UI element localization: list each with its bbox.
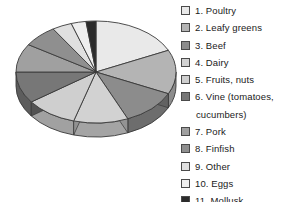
legend-swatch-finfish bbox=[181, 144, 190, 153]
legend-item[interactable]: 3. Beef bbox=[181, 38, 293, 55]
legend-item[interactable]: 5. Fruits, nuts bbox=[181, 72, 293, 89]
legend-item[interactable]: 4. Dairy bbox=[181, 55, 293, 72]
legend-item-label-continued: cucumbers) bbox=[181, 107, 247, 122]
legend-swatch-dairy bbox=[181, 58, 190, 67]
legend-item[interactable]: 7. Pork bbox=[181, 124, 293, 141]
legend-item[interactable]: 6. Vine (tomatoes, bbox=[181, 89, 293, 106]
pie-slices: 1. Poultry2. Leafy greens3. Beef4. Dairy… bbox=[16, 21, 176, 123]
legend-item-label: 4. Dairy bbox=[195, 55, 229, 70]
legend-swatch-pork bbox=[181, 127, 190, 136]
legend-swatch-beef bbox=[181, 41, 190, 50]
legend-item-label: 1. Poultry bbox=[195, 3, 236, 18]
legend-item[interactable]: 9. Other bbox=[181, 159, 293, 176]
legend-item-label: 3. Beef bbox=[195, 38, 226, 53]
legend-swatch-leafy-greens bbox=[181, 23, 190, 32]
pie-chart-figure: 1. Poultry2. Leafy greens3. Beef4. Dairy… bbox=[0, 0, 293, 202]
legend-item[interactable]: 2. Leafy greens bbox=[181, 20, 293, 37]
legend-swatch-eggs bbox=[181, 179, 190, 188]
legend: 1. Poultry2. Leafy greens3. Beef4. Dairy… bbox=[181, 3, 293, 202]
legend-swatch-poultry bbox=[181, 6, 190, 15]
legend-item[interactable]: 1. Poultry bbox=[181, 3, 293, 20]
legend-item[interactable]: 11. Mollusk bbox=[181, 193, 293, 202]
legend-item-label: 11. Mollusk bbox=[195, 193, 243, 202]
legend-item-label: 6. Vine (tomatoes, bbox=[195, 89, 274, 104]
legend-item-label: 9. Other bbox=[195, 159, 230, 174]
legend-item[interactable]: 10. Eggs bbox=[181, 176, 293, 193]
legend-item-label: 7. Pork bbox=[195, 124, 226, 139]
legend-item-label: 5. Fruits, nuts bbox=[195, 72, 254, 87]
pie-chart-graphic: 1. Poultry2. Leafy greens3. Beef4. Dairy… bbox=[0, 0, 180, 160]
legend-swatch-vine bbox=[181, 92, 190, 101]
legend-item[interactable]: 8. Finfish bbox=[181, 141, 293, 158]
pie-svg: 1. Poultry2. Leafy greens3. Beef4. Dairy… bbox=[0, 0, 180, 160]
legend-swatch-fruits-nuts bbox=[181, 75, 190, 84]
legend-item-label: 2. Leafy greens bbox=[195, 20, 262, 35]
legend-item-label: 10. Eggs bbox=[195, 176, 233, 191]
legend-item-continuation: cucumbers) bbox=[181, 107, 293, 124]
legend-swatch-mollusk bbox=[181, 196, 190, 202]
legend-item-label: 8. Finfish bbox=[195, 141, 235, 156]
legend-swatch-other bbox=[181, 162, 190, 171]
